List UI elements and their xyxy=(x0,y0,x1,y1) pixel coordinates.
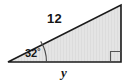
degree-symbol-icon: ° xyxy=(37,47,40,56)
hypotenuse-length-label: 12 xyxy=(47,12,62,25)
angle-measure-value: 32 xyxy=(25,47,37,59)
angle-measure-label: 32° xyxy=(25,48,40,59)
geometry-figure: 12 32° y xyxy=(0,0,126,81)
base-length-label: y xyxy=(61,66,67,79)
